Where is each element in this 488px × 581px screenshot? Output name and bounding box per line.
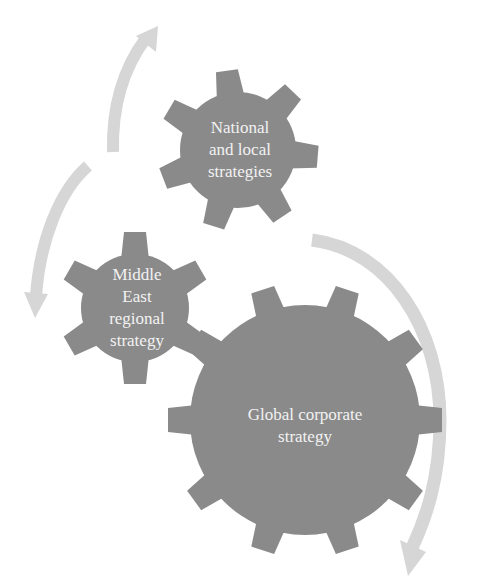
label-line: strategy [278,427,332,446]
label-line: Global corporate [248,405,363,424]
diagram-canvas: National and local strategies Middle Eas… [0,0,488,581]
label-line: Middle [112,265,161,284]
gear-tooth [168,405,196,435]
arrow-up-top [113,26,158,152]
gear-tooth [121,356,149,384]
gear-tooth [121,232,149,260]
gear-tooth [414,405,442,435]
gear-diagram: National and local strategies Middle Eas… [0,0,488,581]
arrow-down-left [24,166,88,318]
label-line: East [122,287,152,306]
label-national-local: National and local strategies [208,118,272,181]
label-line: National [211,118,270,137]
label-line: strategies [208,162,272,181]
label-line: and local [209,140,271,159]
gear-tooth [216,69,245,100]
label-line: strategy [110,331,164,350]
gear-tooth [289,141,319,169]
label-line: regional [109,309,165,328]
arrowhead-down-icon [24,292,48,318]
gear-middle-east-regional [64,232,207,384]
